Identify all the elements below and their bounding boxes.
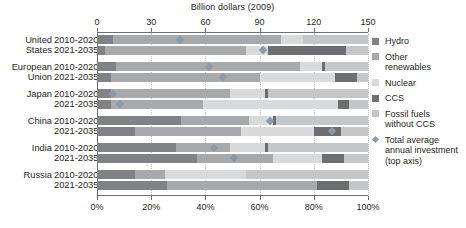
swatch-icon [372, 110, 379, 117]
stacked-bar[interactable] [97, 100, 368, 109]
period-label: 2010-2020 [54, 116, 95, 127]
top-axis-title: Billion dollars (2009) [97, 2, 368, 12]
bottom-tick [205, 196, 206, 200]
bar-segment [230, 143, 265, 152]
bar-segment [317, 181, 350, 190]
chart-root: Billion dollars (2009) 0306090120150 0%2… [0, 0, 466, 228]
bottom-tick-label: 40% [196, 202, 214, 212]
swatch-icon [372, 53, 379, 60]
bar-segment [300, 62, 322, 71]
swatch-icon [372, 95, 379, 102]
bar-segment [97, 35, 113, 44]
bar-segment [105, 46, 246, 55]
period-label: 2010-2020 [54, 89, 95, 100]
stacked-bar[interactable] [97, 35, 368, 44]
legend-label: Total average annual investment (top axi… [385, 135, 466, 167]
bar-segment [260, 73, 336, 82]
bar-segment [113, 35, 281, 44]
top-tick [260, 28, 261, 32]
bottom-tick-label: 100% [356, 202, 379, 212]
top-tick-label: 150 [360, 17, 375, 27]
bar-segment [97, 100, 111, 109]
legend-item[interactable]: Fossil fuels without CCS [372, 109, 466, 130]
stacked-bar[interactable] [97, 62, 368, 71]
period-label: 2021-2035 [54, 153, 95, 164]
period-label: 2010-2020 [54, 143, 95, 154]
bottom-tick [151, 196, 152, 200]
bar-segment [97, 154, 197, 163]
bar-segment [135, 170, 165, 179]
stacked-bar[interactable] [97, 181, 368, 190]
bar-segment [303, 35, 368, 44]
bar-segment [325, 62, 368, 71]
bar-segment [111, 89, 230, 98]
stacked-bar[interactable] [97, 143, 368, 152]
bar-segment [111, 100, 203, 109]
bottom-tick [97, 196, 98, 200]
bottom-tick-label: 0% [90, 202, 103, 212]
stacked-bar[interactable] [97, 73, 368, 82]
bottom-tick-label: 60% [251, 202, 269, 212]
period-label: 2021-2035 [54, 126, 95, 137]
top-tick [368, 28, 369, 32]
bar-segment [181, 116, 249, 125]
bar-segment [281, 35, 303, 44]
bar-segment [338, 100, 349, 109]
bar-segment [203, 100, 339, 109]
bar-segment [268, 89, 368, 98]
gridline [368, 33, 370, 195]
bar-segment [349, 100, 368, 109]
country-labels: United StatesEuropean UnionJapanChinaInd… [0, 33, 52, 195]
bar-segment [111, 73, 260, 82]
country-label: China [0, 116, 52, 127]
period-label: 2010-2020 [54, 170, 95, 181]
bar-segment [230, 89, 265, 98]
legend-label: CCS [385, 93, 466, 104]
bottom-tick [368, 196, 369, 200]
stacked-bar[interactable] [97, 89, 368, 98]
bar-segment [135, 127, 241, 136]
plot-area [97, 33, 368, 195]
bar-segment [335, 73, 357, 82]
bar-segment [165, 170, 246, 179]
top-tick [205, 28, 206, 32]
country-label: European Union [0, 62, 52, 83]
bar-segment [276, 116, 368, 125]
period-label: 2010-2020 [54, 62, 95, 73]
top-tick-label: 90 [255, 17, 265, 27]
chart-legend: HydroOther renewablesNuclearCCSFossil fu… [372, 36, 466, 171]
bar-segment [97, 46, 105, 55]
bar-segment [97, 127, 135, 136]
country-label: United States [0, 35, 52, 56]
legend-label: Other renewables [385, 52, 466, 73]
stacked-bar[interactable] [97, 46, 368, 55]
bar-segment [357, 73, 368, 82]
legend-item[interactable]: CCS [372, 93, 466, 104]
period-label: 2021-2035 [54, 99, 95, 110]
top-tick [97, 28, 98, 32]
top-tick-label: 120 [306, 17, 321, 27]
legend-label: Hydro [385, 36, 466, 47]
legend-item[interactable]: Total average annual investment (top axi… [372, 135, 466, 167]
bar-segment [97, 143, 176, 152]
bar-segment [246, 170, 368, 179]
bar-segment [97, 62, 116, 71]
bar-segment [176, 143, 230, 152]
diamond-icon [371, 135, 378, 142]
bottom-tick-label: 20% [142, 202, 160, 212]
bottom-tick [260, 196, 261, 200]
stacked-bar[interactable] [97, 170, 368, 179]
bar-segment [322, 154, 344, 163]
bar-segment [268, 143, 368, 152]
period-label: 2021-2035 [54, 180, 95, 191]
bar-segment [346, 46, 368, 55]
bar-segment [97, 170, 135, 179]
legend-item[interactable]: Nuclear [372, 78, 466, 89]
bar-segment [241, 127, 314, 136]
country-label: India [0, 143, 52, 154]
period-labels: 2010-20202021-20352010-20202021-20352010… [54, 33, 95, 195]
legend-item[interactable]: Other renewables [372, 52, 466, 73]
stacked-bar[interactable] [97, 116, 368, 125]
bar-segment [167, 181, 316, 190]
legend-item[interactable]: Hydro [372, 36, 466, 47]
